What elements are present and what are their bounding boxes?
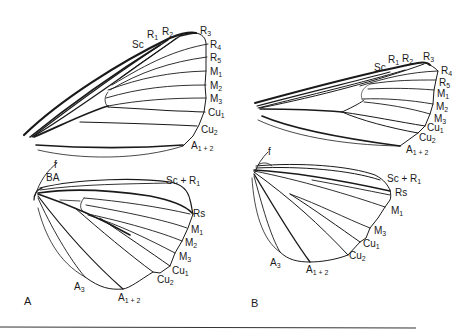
label-cu1: Cu1	[172, 265, 189, 277]
label-f: f	[268, 146, 271, 157]
label-r2: R2	[402, 53, 413, 65]
wing-venation-figure: Sc R1 R2 R3 R4 R5 M1 M2 M3 Cu1 Cu2 A1 + …	[0, 0, 473, 332]
panel-label-a: A	[24, 295, 32, 307]
label-r1: R1	[147, 29, 158, 41]
label-a1-2: A1 + 2	[406, 144, 429, 156]
label-r2: R2	[162, 26, 173, 38]
panel-b-forewing-labels: Sc R1 R2 R3 R4 R5 M1 M2 M3 Cu1 Cu2 A1 + …	[374, 51, 452, 156]
label-m3: M3	[374, 225, 386, 237]
label-m1: M1	[437, 88, 449, 100]
label-f: f	[54, 159, 57, 170]
label-m2: M2	[185, 237, 197, 249]
panel-a-forewing-labels: Sc R1 R2 R3 R4 R5 M1 M2 M3 Cu1 Cu2 A1 + …	[132, 25, 225, 152]
label-cu2: Cu2	[201, 124, 218, 136]
label-r1: R1	[388, 54, 399, 66]
label-rs: Rs	[193, 208, 205, 219]
label-r3: R3	[423, 51, 434, 63]
label-m1: M1	[191, 224, 203, 236]
bottom-rule	[0, 327, 416, 328]
label-ba: BA	[46, 172, 60, 183]
label-cu2: Cu2	[349, 250, 366, 262]
label-m2: M2	[210, 80, 222, 92]
label-r4: R4	[210, 39, 221, 51]
label-r3: R3	[200, 25, 211, 37]
label-sc-r1: Sc + R1	[387, 173, 421, 185]
label-a1-2: A1 + 2	[306, 264, 329, 276]
label-m3: M3	[179, 251, 191, 263]
label-a1-2: A1 + 2	[118, 292, 141, 304]
label-sc-r1: Sc + R1	[166, 175, 200, 187]
label-m1: M1	[210, 66, 222, 78]
label-r4: R4	[441, 65, 452, 77]
label-a3: A3	[270, 257, 281, 269]
panel-b-forewing	[255, 63, 438, 146]
panel-label-b: B	[251, 297, 258, 309]
label-sc: Sc	[374, 62, 386, 73]
label-cu1: Cu1	[363, 238, 380, 250]
label-a3: A3	[74, 281, 85, 293]
label-rs: Rs	[395, 187, 407, 198]
label-r5: R5	[210, 52, 221, 64]
label-m3: M3	[210, 93, 222, 105]
label-cu2: Cu2	[419, 132, 436, 144]
label-sc: Sc	[132, 39, 144, 50]
label-m2: M2	[436, 101, 448, 113]
panel-a-hindwing-labels: f BA Sc + R1 Rs M1 M2 M3 Cu1 Cu2 A3 A1 +…	[24, 159, 205, 307]
panel-a-forewing	[24, 33, 208, 157]
label-a1-2: A1 + 2	[191, 140, 214, 152]
label-cu1: Cu1	[208, 107, 225, 119]
label-m1: M1	[391, 205, 403, 217]
